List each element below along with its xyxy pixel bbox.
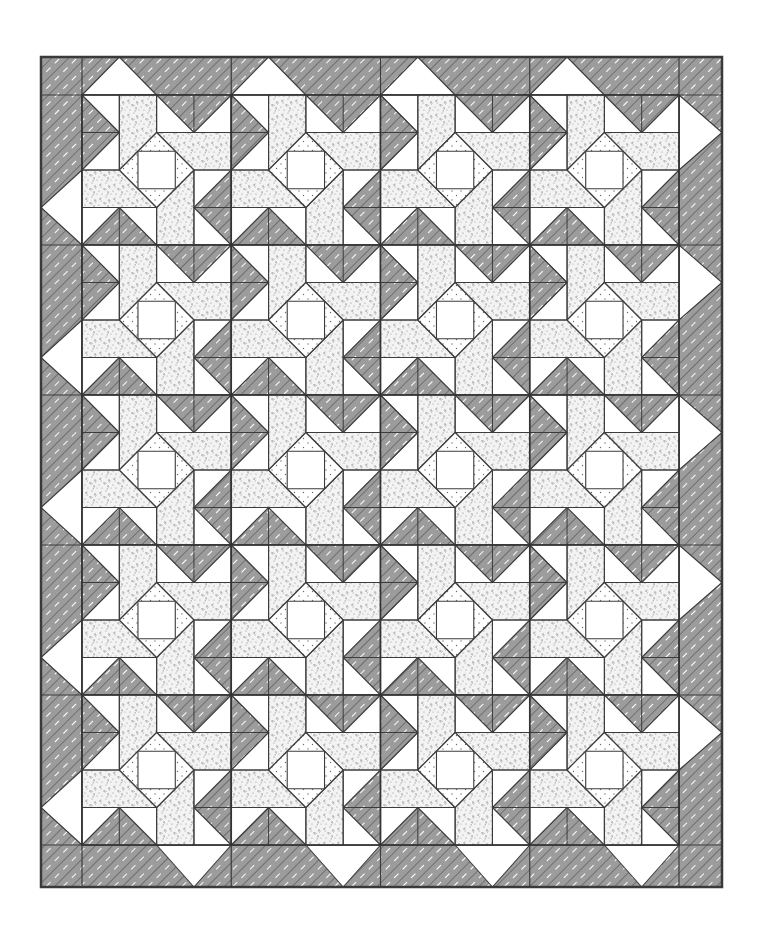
quilt-block — [530, 395, 679, 545]
center-square — [287, 301, 324, 339]
quilt-block — [82, 545, 231, 695]
quilt-block — [231, 95, 380, 245]
quilt-block — [381, 395, 530, 545]
quilt-block — [530, 695, 679, 845]
quilt-block — [82, 95, 231, 245]
quilt-block — [530, 95, 679, 245]
center-square — [586, 451, 623, 489]
quilt-block — [82, 395, 231, 545]
center-square — [436, 601, 473, 639]
center-square — [287, 751, 324, 789]
center-square — [287, 451, 324, 489]
center-square — [138, 451, 175, 489]
center-square — [586, 601, 623, 639]
quilt-block — [231, 395, 380, 545]
quilt-block — [82, 245, 231, 395]
quilt-block — [231, 245, 380, 395]
center-square — [436, 751, 473, 789]
center-square — [138, 601, 175, 639]
quilt-block — [82, 695, 231, 845]
center-square — [436, 451, 473, 489]
quilt-block — [381, 245, 530, 395]
center-square — [586, 151, 623, 189]
center-square — [436, 151, 473, 189]
center-square — [586, 751, 623, 789]
quilt-block — [231, 695, 380, 845]
quilt-block — [231, 545, 380, 695]
center-square — [138, 151, 175, 189]
quilt-block — [530, 545, 679, 695]
quilt-block — [381, 545, 530, 695]
quilt-block — [530, 245, 679, 395]
quilt-block — [381, 695, 530, 845]
quilt-illustration — [0, 0, 762, 939]
center-square — [138, 301, 175, 339]
center-square — [586, 301, 623, 339]
center-square — [287, 601, 324, 639]
center-square — [287, 151, 324, 189]
center-square — [138, 751, 175, 789]
quilt-block — [381, 95, 530, 245]
quilt — [41, 57, 722, 887]
center-square — [436, 301, 473, 339]
